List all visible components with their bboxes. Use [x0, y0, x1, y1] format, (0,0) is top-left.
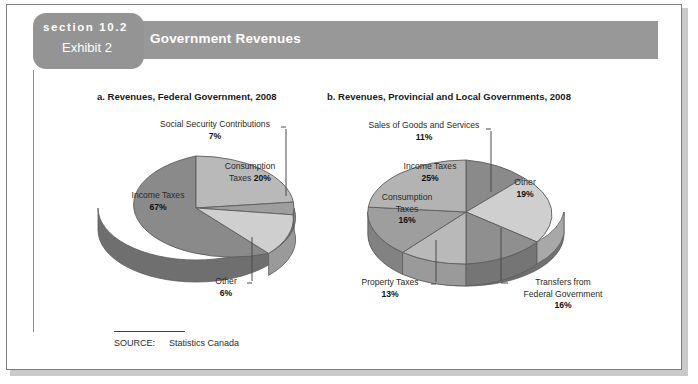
label-property-taxes-text: Property Taxes: [361, 277, 418, 287]
label-transfers-federal-text2: Federal Government: [524, 289, 603, 299]
label-income-taxes-b-text: Income Taxes: [404, 161, 457, 171]
exhibit-page: Government Revenues section 10.2 Exhibit…: [0, 0, 698, 384]
label-income-taxes-a: Income Taxes 67%: [114, 190, 202, 213]
label-other-a-text: Other: [215, 276, 237, 286]
label-other-a-value: 6%: [220, 288, 232, 298]
label-consumption-taxes-a-text: Consumption: [225, 161, 276, 171]
chart-b-title: b. Revenues, Provincial and Local Govern…: [327, 91, 571, 102]
label-property-taxes-value: 13%: [381, 289, 398, 299]
label-consumption-taxes-b: Consumption Taxes 16%: [368, 192, 446, 227]
label-consumption-taxes-b-value: 16%: [398, 215, 415, 225]
chart-a-title: a. Revenues, Federal Government, 2008: [97, 91, 277, 102]
left-margin-rule: [33, 70, 34, 332]
label-social-security-text: Social Security Contributions: [160, 119, 270, 129]
label-sales-goods-services: Sales of Goods and Services 11%: [360, 120, 488, 143]
label-income-taxes-b: Income Taxes 25%: [389, 161, 471, 184]
label-other-b-text: Other: [514, 177, 536, 187]
label-consumption-taxes-b-text2: Taxes: [396, 204, 418, 214]
label-transfers-federal-value: 16%: [554, 300, 571, 310]
label-social-security-value: 7%: [209, 131, 221, 141]
label-income-taxes-a-value: 67%: [149, 202, 166, 212]
source-label: SOURCE:: [114, 338, 155, 348]
section-tab: section 10.2 Exhibit 2: [33, 13, 144, 69]
section-number: section 10.2: [43, 21, 128, 33]
source-rule: [114, 331, 185, 332]
exhibit-number: Exhibit 2: [62, 40, 112, 55]
label-consumption-taxes-a-text2: Taxes: [229, 173, 251, 183]
label-consumption-taxes-a: Consumption Taxes 20%: [205, 161, 295, 184]
source-value: Statistics Canada: [169, 338, 239, 348]
header-banner: Government Revenues: [98, 21, 658, 59]
label-other-b-value: 19%: [516, 189, 533, 199]
label-transfers-federal-text: Transfers from: [535, 277, 591, 287]
label-other-a: Other 6%: [205, 276, 247, 299]
label-consumption-taxes-b-text: Consumption: [382, 192, 433, 202]
label-sales-goods-services-text: Sales of Goods and Services: [369, 120, 480, 130]
label-consumption-taxes-a-value: 20%: [254, 173, 271, 183]
label-income-taxes-b-value: 25%: [421, 173, 438, 183]
label-income-taxes-a-text: Income Taxes: [132, 190, 185, 200]
source-line: SOURCE:Statistics Canada: [114, 338, 239, 348]
label-sales-goods-services-value: 11%: [416, 132, 433, 142]
label-property-taxes: Property Taxes 13%: [352, 277, 428, 300]
label-social-security: Social Security Contributions 7%: [148, 119, 282, 142]
exhibit-title: Government Revenues: [150, 31, 301, 46]
label-other-b: Other 19%: [504, 177, 546, 200]
label-transfers-federal: Transfers from Federal Government 16%: [511, 277, 615, 312]
